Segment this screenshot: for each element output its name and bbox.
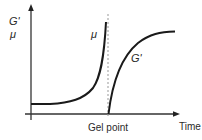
storage-modulus-curve — [109, 32, 176, 115]
y-axis-arrow-icon — [28, 4, 34, 11]
y-axis-label-g-prime: G' — [9, 15, 21, 27]
storage-modulus-curve-label: G' — [131, 52, 143, 64]
y-axis-label-mu: μ — [9, 28, 16, 40]
gel-point-diagram: G' μ μ G' Gel point Time — [0, 0, 202, 140]
x-axis-arrow-icon — [173, 111, 180, 117]
x-axis-label-time: Time — [179, 121, 201, 132]
viscosity-curve-label: μ — [90, 28, 97, 40]
gel-point-label: Gel point — [88, 122, 128, 133]
